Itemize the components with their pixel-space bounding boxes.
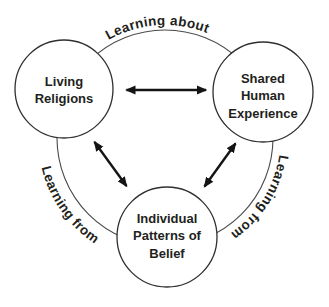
diagram-canvas: Learning about Learning from Learning fr… [0,0,329,307]
node-circle-individual-patterns-of-belief [117,187,217,287]
arrow-living-religions-individual-patterns [95,142,127,186]
arrow-shared-human-experience-individual-patterns [205,144,236,187]
arc-label-learning-about: Learning about [103,13,212,43]
node-circle-living-religions [15,40,113,138]
arc-label-learning-from-right: Learning from [228,154,291,243]
arc-label-learning-from-left: Learning from [39,164,103,246]
node-circle-shared-human-experience [213,42,313,142]
learning-cycle-diagram: Learning about Learning from Learning fr… [0,0,329,307]
